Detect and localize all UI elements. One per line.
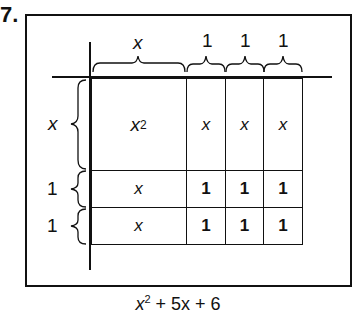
cell-x: x	[91, 208, 186, 244]
x-squared-base: x	[130, 114, 140, 136]
cell-one: 1	[264, 208, 302, 244]
cell-one: 1	[187, 208, 225, 244]
cell-x-squared: x2	[91, 79, 186, 170]
side-label-x: x	[48, 113, 58, 135]
side-label-1a: 1	[47, 178, 58, 200]
cell-x: x	[187, 79, 225, 170]
cell-x: x	[264, 79, 302, 170]
cell-one: 1	[264, 171, 302, 207]
x-squared-exponent: 2	[140, 118, 147, 132]
cell-x: x	[91, 171, 186, 207]
cell-one: 1	[226, 171, 263, 207]
side-label-1b: 1	[47, 215, 58, 237]
cell-one: 1	[187, 171, 225, 207]
cell-x: x	[226, 79, 263, 170]
cell-one: 1	[226, 208, 263, 244]
caption-rest: + 5x + 6	[151, 294, 221, 314]
expression-caption: x2 + 5x + 6	[0, 293, 356, 314]
